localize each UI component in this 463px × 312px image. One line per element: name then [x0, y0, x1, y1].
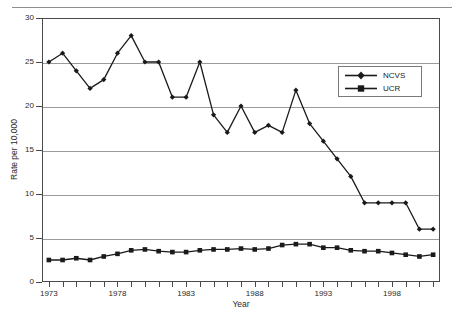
data-point-square — [321, 245, 326, 250]
x-tick-mark — [145, 282, 146, 287]
data-point-square — [239, 246, 244, 251]
series-line — [49, 36, 433, 230]
y-tick-mark — [36, 282, 42, 283]
data-point-square — [307, 242, 312, 247]
data-point-diamond — [376, 200, 381, 205]
x-tick-mark — [406, 282, 407, 287]
data-point-diamond — [389, 200, 394, 205]
data-point-square — [266, 246, 271, 251]
x-tick-mark — [255, 282, 256, 287]
x-tick-mark — [310, 282, 311, 287]
x-tick-mark — [200, 282, 201, 287]
data-point-square — [403, 252, 408, 257]
x-tick-mark — [117, 282, 118, 287]
x-tick-mark — [76, 282, 77, 287]
data-point-diamond — [293, 88, 298, 93]
data-point-diamond — [252, 130, 257, 135]
data-point-diamond — [238, 103, 243, 108]
data-point-diamond — [197, 59, 202, 64]
y-tick-label: 5 — [10, 234, 34, 242]
x-tick-mark — [159, 282, 160, 287]
data-point-square — [376, 249, 381, 254]
data-point-square — [74, 256, 79, 261]
data-point-square — [101, 254, 106, 259]
x-tick-mark — [227, 282, 228, 287]
series-layer — [42, 18, 440, 282]
series-ncvs — [46, 33, 435, 232]
y-tick-label: 30 — [10, 14, 34, 22]
legend-entry-ncvs: NCVS — [343, 69, 419, 82]
x-tick-mark — [49, 282, 50, 287]
data-point-diamond — [266, 123, 271, 128]
data-point-square — [335, 245, 340, 250]
x-tick-mark — [104, 282, 105, 287]
x-tick-mark — [323, 282, 324, 287]
x-tick-mark — [433, 282, 434, 287]
data-point-square — [225, 247, 230, 252]
data-point-diamond — [362, 200, 367, 205]
data-point-diamond — [184, 95, 189, 100]
data-point-diamond — [417, 227, 422, 232]
legend-marker-square-icon — [343, 82, 379, 95]
data-point-square — [390, 251, 395, 256]
x-tick-mark — [337, 282, 338, 287]
data-point-square — [252, 247, 257, 252]
x-tick-mark — [351, 282, 352, 287]
x-tick-label: 1973 — [29, 289, 69, 298]
x-tick-mark — [268, 282, 269, 287]
y-tick-label: 25 — [10, 58, 34, 66]
data-point-diamond — [280, 130, 285, 135]
data-point-square — [184, 250, 189, 255]
x-tick-label: 1988 — [235, 289, 275, 298]
x-axis-title: Year — [42, 300, 440, 309]
legend-label-ucr: UCR — [383, 84, 400, 93]
series-ucr — [47, 242, 436, 262]
data-point-diamond — [431, 227, 436, 232]
chart-legend: NCVS UCR — [338, 66, 422, 97]
data-point-square — [198, 248, 203, 253]
data-point-square — [156, 249, 161, 254]
data-point-square — [129, 248, 134, 253]
x-tick-mark — [131, 282, 132, 287]
x-tick-label: 1998 — [372, 289, 412, 298]
data-point-diamond — [170, 95, 175, 100]
data-point-square — [348, 248, 353, 253]
data-point-square — [362, 249, 367, 254]
x-tick-label: 1978 — [97, 289, 137, 298]
data-point-square — [88, 258, 93, 263]
y-axis-title: Rate per 10,000 — [10, 90, 19, 210]
data-point-square — [170, 250, 175, 255]
x-tick-mark — [214, 282, 215, 287]
data-point-square — [143, 247, 148, 252]
x-tick-mark — [419, 282, 420, 287]
data-point-square — [47, 258, 52, 263]
data-point-square — [431, 252, 436, 257]
data-point-diamond — [142, 59, 147, 64]
data-point-diamond — [156, 59, 161, 64]
legend-entry-ucr: UCR — [343, 82, 419, 95]
chart-figure: 051015202530Rate per 10,0001973197819831… — [0, 0, 463, 312]
x-tick-label: 1993 — [303, 289, 343, 298]
x-tick-mark — [392, 282, 393, 287]
x-tick-mark — [282, 282, 283, 287]
header-rule — [12, 7, 452, 8]
x-tick-label: 1983 — [166, 289, 206, 298]
data-point-square — [115, 252, 120, 257]
legend-marker-diamond-icon — [343, 69, 379, 82]
y-tick-label: 0 — [10, 278, 34, 286]
data-point-square — [280, 243, 285, 248]
x-tick-mark — [365, 282, 366, 287]
data-point-diamond — [403, 200, 408, 205]
x-tick-mark — [296, 282, 297, 287]
x-tick-mark — [90, 282, 91, 287]
data-point-square — [211, 247, 216, 252]
data-point-square — [294, 242, 299, 247]
data-point-square — [60, 258, 65, 263]
legend-label-ncvs: NCVS — [383, 71, 405, 80]
x-tick-mark — [172, 282, 173, 287]
x-tick-mark — [378, 282, 379, 287]
x-tick-mark — [241, 282, 242, 287]
x-tick-mark — [186, 282, 187, 287]
x-tick-mark — [63, 282, 64, 287]
data-point-square — [417, 254, 422, 259]
